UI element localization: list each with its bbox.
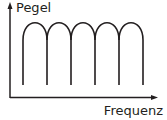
diagram-graphic xyxy=(0,0,167,120)
lobe-5 xyxy=(119,23,143,85)
lobe-4 xyxy=(95,23,119,85)
lobe-3 xyxy=(71,23,95,85)
y-axis-label: Pegel xyxy=(16,1,51,14)
y-axis-arrow-icon xyxy=(8,2,13,9)
x-axis-arrow-icon xyxy=(151,95,158,100)
filter-lobes xyxy=(23,23,143,85)
x-axis-label: Frequenz xyxy=(104,104,163,117)
lobe-2 xyxy=(47,23,71,85)
frequency-level-diagram: Pegel Frequenz xyxy=(0,0,167,120)
lobe-1 xyxy=(23,23,47,85)
